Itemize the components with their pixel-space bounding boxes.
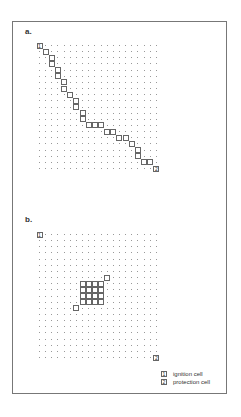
grid-dot [107,271,108,272]
burned-cell [43,49,49,55]
grid-dot [57,345,58,346]
grid-dot [57,168,58,169]
grid-dot [131,246,132,247]
grid-dot [101,82,102,83]
grid-dot [39,271,40,272]
grid-dot [131,252,132,253]
grid-dot [82,63,83,64]
grid-dot [113,296,114,297]
grid-dot [45,302,46,303]
grid-dot [113,143,114,144]
grid-dot [45,265,46,266]
grid-dot [125,289,126,290]
grid-dot [113,289,114,290]
grid-dot [131,234,132,235]
grid-dot [125,240,126,241]
grid-dot [94,156,95,157]
grid-dot [125,345,126,346]
grid-dot [70,289,71,290]
grid-dot [125,277,126,278]
grid-dot [88,131,89,132]
grid-dot [125,339,126,340]
grid-dot [51,302,52,303]
grid-dot [131,339,132,340]
grid-dot [101,339,102,340]
grid-dot [101,277,102,278]
grid-dot [125,51,126,52]
grid-dot [125,308,126,309]
grid-dot [45,277,46,278]
grid-dot [131,302,132,303]
grid-dot [119,320,120,321]
grid-dot [76,246,77,247]
grid-dot [64,265,65,266]
grid-dot [107,252,108,253]
grid-dot [57,137,58,138]
grid-dot [57,283,58,284]
grid-dot [64,296,65,297]
grid-dot [57,162,58,163]
grid-dot [76,277,77,278]
grid-dot [64,339,65,340]
grid-dot [39,88,40,89]
grid-dot [150,137,151,138]
grid-dot [70,125,71,126]
grid-dot [107,137,108,138]
grid-dot [45,240,46,241]
grid-dot [119,283,120,284]
grid-dot [150,100,151,101]
grid-dot [76,94,77,95]
grid-dot [144,246,145,247]
grid-dot [82,332,83,333]
burned-cell [98,287,104,293]
grid-dot [131,326,132,327]
grid-dot [125,76,126,77]
grid-dot [156,143,157,144]
grid-dot [76,119,77,120]
grid-dot [45,156,46,157]
grid-dot [137,88,138,89]
grid-dot [64,326,65,327]
grid-dot [150,156,151,157]
grid-dot [82,339,83,340]
grid-dot [94,94,95,95]
grid-dot [125,246,126,247]
grid-dot [45,339,46,340]
grid-dot [64,345,65,346]
grid-dot [137,320,138,321]
grid-dot [156,156,157,157]
grid-dot [94,113,95,114]
grid-dot [144,357,145,358]
grid-dot [131,156,132,157]
grid-dot [119,265,120,266]
grid-dot [113,271,114,272]
grid-dot [51,107,52,108]
grid-dot [64,332,65,333]
grid-dot [144,100,145,101]
grid-dot [51,314,52,315]
grid-dot [45,76,46,77]
grid-dot [64,125,65,126]
grid-dot [94,246,95,247]
grid-dot [131,76,132,77]
grid-dot [88,168,89,169]
grid-dot [39,345,40,346]
grid-dot [76,63,77,64]
grid-dot [88,234,89,235]
grid-dot [119,143,120,144]
grid-dot [45,234,46,235]
grid-dot [82,234,83,235]
grid-dot [94,107,95,108]
grid-dot [45,326,46,327]
grid-dot [64,57,65,58]
grid-dot [125,45,126,46]
grid-dot [57,296,58,297]
grid-dot [131,283,132,284]
grid-dot [39,94,40,95]
grid-dot [150,57,151,58]
grid-dot [137,119,138,120]
grid-dot [82,107,83,108]
burned-cell [92,299,98,305]
grid-dot [76,131,77,132]
grid-dot [156,283,157,284]
